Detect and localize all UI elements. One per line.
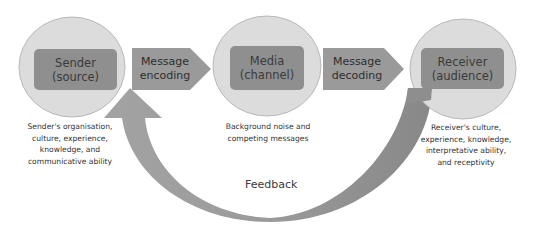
receiver-title: Receiver	[432, 55, 494, 69]
sender-caption: Sender's organisation, culture, experien…	[14, 121, 126, 167]
receiver-caption-line: Receiver's culture,	[420, 122, 512, 134]
media-caption-line: competing messages	[218, 133, 318, 145]
receiver-caption-line: experience, knowledge,	[420, 134, 512, 146]
receiver-caption: Receiver's culture, experience, knowledg…	[420, 122, 512, 168]
media-label: Media (channel)	[230, 46, 304, 90]
decoding-line1: Message	[332, 55, 383, 69]
receiver-label: Receiver (audience)	[421, 48, 504, 89]
media-subtitle: (channel)	[240, 68, 294, 82]
media-title: Media	[240, 54, 294, 68]
receiver-caption-line: interpretative ability,	[420, 145, 512, 157]
decoding-line2: decoding	[332, 69, 383, 83]
receiver-subtitle: (audience)	[432, 69, 494, 83]
media-caption: Background noise and competing messages	[218, 121, 318, 144]
encoding-label: Message encoding	[132, 48, 198, 90]
sender-title: Sender	[52, 56, 99, 70]
sender-caption-line: knowledge, and	[14, 144, 126, 156]
diagram-canvas	[0, 0, 539, 226]
encoding-line2: encoding	[140, 69, 191, 83]
sender-caption-line: communicative ability	[14, 156, 126, 168]
encoding-line1: Message	[140, 55, 191, 69]
decoding-label: Message decoding	[323, 48, 391, 90]
media-caption-line: Background noise and	[218, 121, 318, 133]
feedback-label: Feedback	[245, 178, 297, 191]
sender-label: Sender (source)	[34, 49, 117, 90]
sender-caption-line: Sender's organisation,	[14, 121, 126, 133]
sender-subtitle: (source)	[52, 70, 99, 84]
receiver-caption-line: and receptivity	[420, 157, 512, 169]
sender-caption-line: culture, experience,	[14, 133, 126, 145]
